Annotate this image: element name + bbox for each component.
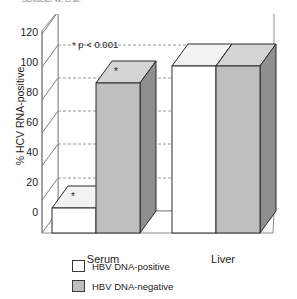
significance-star-serum-negative: *	[114, 67, 118, 77]
legend-label-hbv-dna-negative: HBV DNA-negative	[92, 281, 173, 292]
legend-swatch-hbv-dna-positive	[72, 260, 85, 272]
legend-swatch-hbv-dna-negative	[72, 280, 85, 292]
chart-canvas	[0, 14, 297, 242]
clipped-caption-text: Schlueter W, et al.	[22, 0, 81, 3]
legend-label-hbv-dna-positive: HBV DNA-positive	[92, 261, 170, 272]
bar-serum-hbv-dna-negative	[96, 61, 156, 233]
legend-item-hbv-dna-negative: HBV DNA-negative	[72, 278, 173, 294]
chart-figure: Schlueter W, et al. 120 100 80 60 40 20 …	[0, 0, 297, 299]
significance-star-serum-positive: *	[71, 192, 75, 202]
plot-left-wall	[42, 14, 58, 233]
bar-liver-hbv-dna-negative	[216, 44, 276, 233]
legend-item-hbv-dna-positive: HBV DNA-positive	[72, 258, 173, 274]
p-value-annotation: * p < 0.001	[72, 39, 118, 50]
chart-plot-area: 120 100 80 60 40 20 0 % HCV RNA-positive	[0, 14, 297, 242]
chart-legend: HBV DNA-positive HBV DNA-negative	[72, 258, 173, 298]
x-tick-liver: Liver	[178, 253, 268, 265]
